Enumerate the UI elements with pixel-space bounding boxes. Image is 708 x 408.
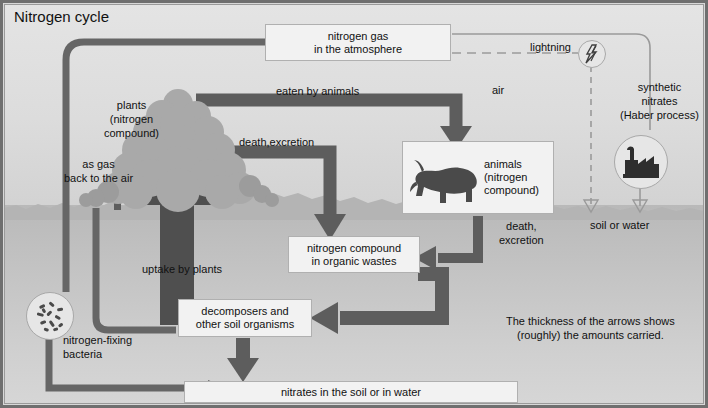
grazing-horse-icon [408, 152, 484, 206]
label-synthetic-nitrates: synthetic nitrates (Haber process) [620, 80, 699, 122]
label-plants: plants (nitrogen compound) [104, 98, 159, 140]
label-lightning: lightning [530, 41, 571, 54]
node-label: animals (nitrogen compound) [484, 158, 553, 197]
factory-circle[interactable] [614, 135, 668, 189]
label-eaten-by-animals: eaten by animals [276, 85, 359, 98]
label-as-gas-back-to-air: as gas back to the air [64, 157, 133, 185]
label-air: air [492, 84, 504, 97]
label-arrow-thickness-note: The thickness of the arrows shows (rough… [506, 314, 675, 342]
node-organic-wastes[interactable]: nitrogen compound in organic wastes [288, 236, 420, 273]
node-label: nitrogen compound in organic wastes [307, 242, 401, 268]
node-label: nitrates in the soil or in water [281, 386, 421, 399]
lightning-circle[interactable] [578, 40, 606, 68]
label-soil-or-water: soil or water [590, 219, 649, 232]
label-nitrogen-fixing-bacteria: nitrogen-fixing bacteria [63, 333, 132, 361]
label-death-excretion-plants: death,excretion [239, 136, 314, 149]
page-title: Nitrogen cycle [14, 8, 109, 25]
lightning-bolt-icon [579, 41, 605, 67]
node-nitrogen-gas-atmosphere[interactable]: nitrogen gas in the atmosphere [265, 24, 451, 61]
node-label: decomposers and other soil organisms [196, 305, 294, 331]
nitrogen-cycle-diagram: Nitrogen cycle nitrogen gas in the atmos… [0, 0, 708, 408]
factory-icon [615, 136, 667, 188]
node-label: nitrogen gas in the atmosphere [314, 30, 402, 56]
node-decomposers[interactable]: decomposers and other soil organisms [178, 299, 312, 337]
label-death-excretion-animals: death, excretion [499, 219, 544, 247]
node-nitrates[interactable]: nitrates in the soil or in water [184, 381, 518, 403]
label-uptake-by-plants: uptake by plants [142, 263, 222, 276]
